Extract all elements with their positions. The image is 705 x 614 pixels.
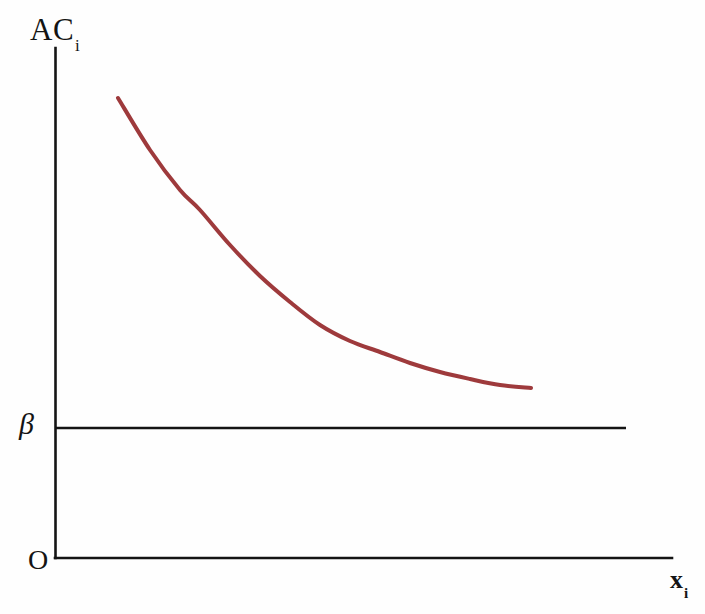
x-axis-label-main: x <box>670 565 683 594</box>
origin-label: O <box>28 546 48 574</box>
y-axis-label-main: AC <box>30 12 74 47</box>
y-axis-label-subscript: i <box>75 36 80 55</box>
x-axis-label: xi <box>670 567 687 597</box>
average-cost-curve <box>118 98 531 388</box>
beta-label: β <box>19 409 34 439</box>
x-axis-label-subscript: i <box>684 585 688 601</box>
figure-canvas: ACi β O xi <box>0 0 705 614</box>
y-axis-label: ACi <box>30 14 79 50</box>
plot-svg <box>0 0 705 614</box>
